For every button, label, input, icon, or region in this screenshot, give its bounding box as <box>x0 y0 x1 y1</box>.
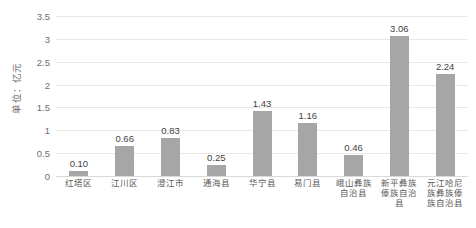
bar-value-label: 0.25 <box>193 152 239 163</box>
bar-slot: 0.46 <box>331 16 377 176</box>
bar-value-label: 1.43 <box>239 98 285 109</box>
y-axis-tick-label: 3.5 <box>37 11 50 22</box>
x-axis-category-label: 红塔区 <box>56 178 102 208</box>
x-axis-category-label: 通海县 <box>193 178 239 208</box>
bar <box>436 74 455 176</box>
bar-value-label: 0.10 <box>56 158 102 169</box>
y-axis-tick-label: 0.5 <box>37 148 50 159</box>
bar-slot: 1.43 <box>239 16 285 176</box>
y-axis-tick-label: 3 <box>45 33 50 44</box>
bar <box>115 146 134 176</box>
x-axis-category-label: 华宁县 <box>239 178 285 208</box>
bar-slot: 0.83 <box>148 16 194 176</box>
y-axis-tick-label: 0 <box>45 171 50 182</box>
x-axis-category-label: 澄江市 <box>148 178 194 208</box>
y-axis-tick-labels: 00.511.522.533.5 <box>24 16 54 176</box>
bar <box>207 165 226 176</box>
y-axis-tick-label: 2.5 <box>37 56 50 67</box>
bar <box>298 123 317 176</box>
bar <box>344 155 363 176</box>
bar-slot: 0.25 <box>193 16 239 176</box>
bar-slot: 0.10 <box>56 16 102 176</box>
bar-slot: 3.06 <box>376 16 422 176</box>
x-axis-category-labels: 红塔区江川区澄江市通海县华宁县易门县峨山彝族自治县新平彝族傣族自治县元江哈尼族彝… <box>56 178 468 208</box>
x-axis-category-label: 江川区 <box>102 178 148 208</box>
x-axis-category-label: 易门县 <box>285 178 331 208</box>
bars-layer: 0.100.660.830.251.431.160.463.062.24 <box>56 16 468 176</box>
bar-value-label: 2.24 <box>422 61 468 72</box>
bar-value-label: 0.46 <box>331 142 377 153</box>
y-axis-title-text: 单位：亿元 <box>8 63 22 114</box>
bar <box>69 171 88 176</box>
bar-value-label: 0.66 <box>102 133 148 144</box>
bar-value-label: 0.83 <box>148 125 194 136</box>
bar-value-label: 3.06 <box>376 23 422 34</box>
y-axis-tick-label: 1.5 <box>37 102 50 113</box>
plot-area: 0.100.660.830.251.431.160.463.062.24 <box>56 16 468 176</box>
bar-slot: 2.24 <box>422 16 468 176</box>
y-axis-tick-label: 1 <box>45 125 50 136</box>
x-axis-category-label: 元江哈尼族彝族傣族自治县 <box>422 178 468 208</box>
bar-value-label: 1.16 <box>285 110 331 121</box>
y-axis-title: 单位：亿元 <box>6 0 24 176</box>
x-axis-category-label: 峨山彝族自治县 <box>331 178 377 208</box>
x-axis-category-label: 新平彝族傣族自治县 <box>376 178 422 208</box>
bar-chart: 单位：亿元 00.511.522.533.5 0.100.660.830.251… <box>0 0 476 228</box>
bar-slot: 0.66 <box>102 16 148 176</box>
axis-baseline <box>56 176 468 177</box>
bar <box>161 138 180 176</box>
bar <box>390 36 409 176</box>
y-axis-tick-label: 2 <box>45 79 50 90</box>
bar-slot: 1.16 <box>285 16 331 176</box>
bar <box>253 111 272 176</box>
